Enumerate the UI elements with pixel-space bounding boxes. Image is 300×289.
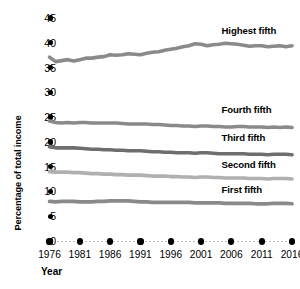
x-tick-label: 2016 (272, 249, 300, 260)
plot-area (41, 8, 300, 243)
x-tick-dot (46, 238, 52, 244)
x-tick-dot (168, 238, 174, 244)
x-axis-title: Year (41, 266, 62, 277)
x-tick-dot (228, 238, 234, 244)
series-line (50, 201, 293, 204)
x-tick-dot (259, 238, 265, 244)
series-svg (41, 8, 300, 243)
x-tick-dot (137, 238, 143, 244)
x-tick-dot (77, 238, 83, 244)
series-label-second-fifth: Second fifth (222, 159, 276, 170)
series-label-first-fifth: First fifth (222, 184, 262, 195)
series-label-fourth-fifth: Fourth fifth (222, 104, 272, 115)
series-line (50, 121, 293, 127)
income-distribution-line-chart: Percentage of total income 4540353025201… (0, 0, 300, 289)
series-line (50, 172, 293, 179)
series-line (50, 43, 293, 61)
series-line (50, 147, 293, 155)
x-tick-dot (107, 238, 113, 244)
x-tick-dot (289, 238, 295, 244)
series-label-highest-fifth: Highest fifth (222, 25, 277, 36)
series-label-third-fifth: Third fifth (222, 132, 266, 143)
x-tick-dot (198, 238, 204, 244)
